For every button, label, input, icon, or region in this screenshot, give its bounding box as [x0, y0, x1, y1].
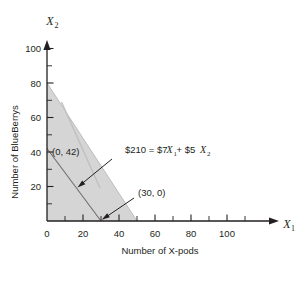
isoprofit-equation-var1: X	[166, 144, 174, 155]
chart-background	[0, 0, 306, 284]
isoprofit-equation-var2: X	[199, 144, 207, 155]
isoprofit-equation-sub2: 2	[207, 150, 211, 158]
x-axis-title: Number of X-pods	[121, 245, 198, 256]
isoprofit-equation-middle: + $5	[177, 144, 196, 155]
x-tick-label-0: 0	[44, 228, 49, 239]
x-tick-label-80: 80	[186, 228, 197, 239]
y-tick-label-40: 40	[30, 147, 41, 158]
linear-programming-chart: 20 40 60 80 100 0 20 40 60 80 100 Number…	[0, 0, 306, 284]
isoprofit-equation-prefix: $210 = $7	[125, 144, 168, 155]
vertical-intercept-label: (0, 42)	[52, 146, 79, 157]
x-tick-label-40: 40	[114, 228, 125, 239]
chart-svg: 20 40 60 80 100 0 20 40 60 80 100 Number…	[0, 0, 306, 284]
y-tick-label-80: 80	[30, 78, 41, 89]
y-tick-label-100: 100	[25, 43, 41, 54]
y-tick-label-60: 60	[30, 112, 41, 123]
x-tick-label-60: 60	[150, 228, 161, 239]
y-axis-title: Number of BlueBerrys	[9, 105, 20, 199]
x-axis-variable-subscript: 1	[291, 224, 295, 233]
x-axis-variable-letter: X	[282, 217, 291, 231]
y-tick-label-20: 20	[30, 181, 41, 192]
x-tick-label-100: 100	[219, 228, 235, 239]
y-axis-variable-letter: X	[45, 14, 54, 28]
horizontal-intercept-label: (30, 0)	[138, 187, 165, 198]
x-tick-label-20: 20	[78, 228, 89, 239]
y-axis-variable-subscript: 2	[55, 21, 59, 30]
